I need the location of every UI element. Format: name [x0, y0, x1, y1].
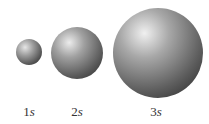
label-3s: 3s: [150, 104, 162, 120]
sphere-2s: [51, 27, 103, 79]
sphere-3s: [113, 8, 203, 98]
label-2s: 2s: [71, 104, 83, 120]
label-1s: 1s: [23, 104, 35, 120]
orbital-diagram: 1s 2s 3s: [0, 0, 209, 124]
sphere-1s: [16, 39, 42, 65]
